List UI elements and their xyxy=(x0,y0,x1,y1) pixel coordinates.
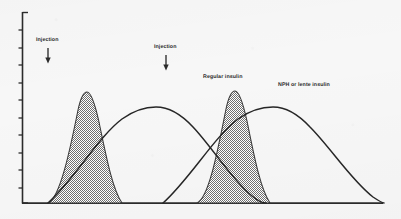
nph-curve-2 xyxy=(163,107,384,203)
label-nph-lente-insulin: NPH or lente insulin xyxy=(278,83,330,88)
regular-insulin-peak-1 xyxy=(48,92,122,203)
injection-arrow-1 xyxy=(45,48,50,64)
insulin-curves-plot xyxy=(0,0,401,219)
insulin-action-figure: Injection Injection Regular insulin NPH … xyxy=(0,0,401,219)
label-regular-insulin: Regular insulin xyxy=(203,75,242,80)
regular-insulin-peak-2 xyxy=(197,91,270,203)
injection-arrow-2 xyxy=(163,55,168,71)
injection-arrows xyxy=(45,48,168,71)
label-injection-2: Injection xyxy=(154,45,177,50)
label-injection-1: Injection xyxy=(36,38,59,43)
